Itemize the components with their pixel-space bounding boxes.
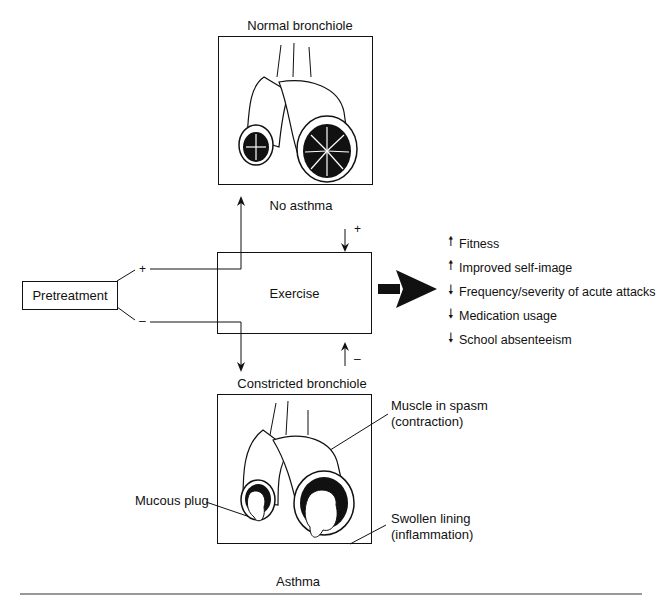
exercise-label: Exercise — [270, 286, 320, 301]
no-asthma-caption: No asthma — [270, 198, 333, 213]
down-arrow-icon: 🠗 — [448, 329, 457, 350]
down-arrow-icon: 🠗 — [448, 281, 457, 302]
constricted-bronchiole-illustration — [218, 395, 370, 542]
exercise-plus-sign: + — [354, 222, 361, 236]
pretreatment-minus-sign: – — [139, 314, 146, 328]
asthma-caption: Asthma — [276, 574, 320, 589]
pretreatment-box: Pretreatment — [22, 281, 118, 310]
mucous-plug-annotation: Mucous plug — [135, 493, 209, 508]
outcome-acute-attacks: 🠗 Frequency/severity of acute attacks — [448, 281, 656, 302]
muscle-spasm-annotation: Muscle in spasm (contraction) — [391, 398, 488, 430]
exercise-minus-sign: – — [354, 352, 361, 366]
down-arrow-icon: 🠗 — [448, 305, 457, 326]
outcome-self-image: 🠕 Improved self-image — [448, 257, 572, 278]
exercise-box: Exercise — [217, 252, 372, 334]
pretreatment-plus-sign: + — [139, 262, 146, 276]
up-arrow-icon: 🠕 — [448, 257, 457, 278]
swollen-lining-annotation: Swollen lining (inflammation) — [391, 511, 473, 543]
outcome-medication: 🠗 Medication usage — [448, 305, 557, 326]
constricted-bronchiole-panel — [217, 394, 372, 544]
normal-bronchiole-title: Normal bronchiole — [247, 18, 353, 33]
normal-bronchiole-illustration — [219, 37, 371, 183]
constricted-bronchiole-title: Constricted bronchiole — [237, 376, 366, 391]
pretreatment-label: Pretreatment — [32, 288, 107, 303]
normal-bronchiole-panel — [218, 36, 373, 185]
outcome-absenteeism: 🠗 School absenteeism — [448, 329, 572, 350]
outcome-fitness: 🠕 Fitness — [448, 233, 499, 254]
up-arrow-icon: 🠕 — [448, 233, 457, 254]
